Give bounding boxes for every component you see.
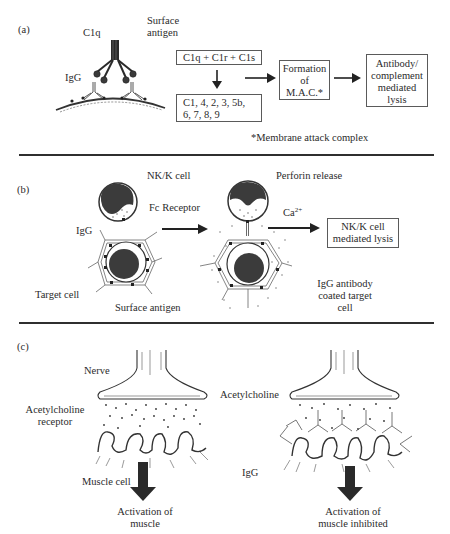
neuromuscular-junction-illustration — [0, 0, 450, 534]
